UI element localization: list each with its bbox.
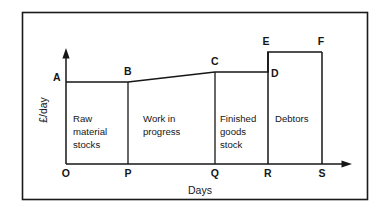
x-tick-label-o: O (62, 167, 70, 179)
point-label-a: A (53, 71, 61, 83)
segment-raw-line-2: material (73, 126, 107, 137)
x-tick-label-r: R (264, 167, 272, 179)
segment-raw-line-1: Raw (73, 113, 92, 124)
point-label-c: C (211, 55, 219, 67)
point-label-d: D (271, 67, 279, 79)
point-label-b: B (124, 65, 132, 77)
segment-label-debtors: Debtors (275, 113, 309, 124)
segment-debtors-line-1: Debtors (275, 113, 309, 124)
working-capital-cycle-chart: A B C D E F O P Q R S Days £/day Raw mat… (0, 0, 390, 211)
point-label-f: F (318, 35, 325, 47)
segment-fgs-line-2: goods (220, 126, 246, 137)
segment-fgs-line-3: stock (220, 139, 243, 150)
x-tick-label-p: P (124, 167, 131, 179)
point-label-e: E (262, 35, 269, 47)
y-axis-title: £/day (37, 96, 49, 122)
x-tick-label-q: Q (211, 167, 219, 179)
segment-fgs-line-1: Finished (220, 113, 256, 124)
x-axis-title: Days (188, 184, 212, 196)
segment-raw-line-3: stocks (73, 139, 100, 150)
segment-wip-line-1: Work in (143, 113, 175, 124)
figure-border (23, 13, 368, 200)
figure-container: A B C D E F O P Q R S Days £/day Raw mat… (0, 0, 390, 211)
segment-wip-line-2: progress (143, 126, 181, 137)
x-tick-label-s: S (318, 167, 325, 179)
